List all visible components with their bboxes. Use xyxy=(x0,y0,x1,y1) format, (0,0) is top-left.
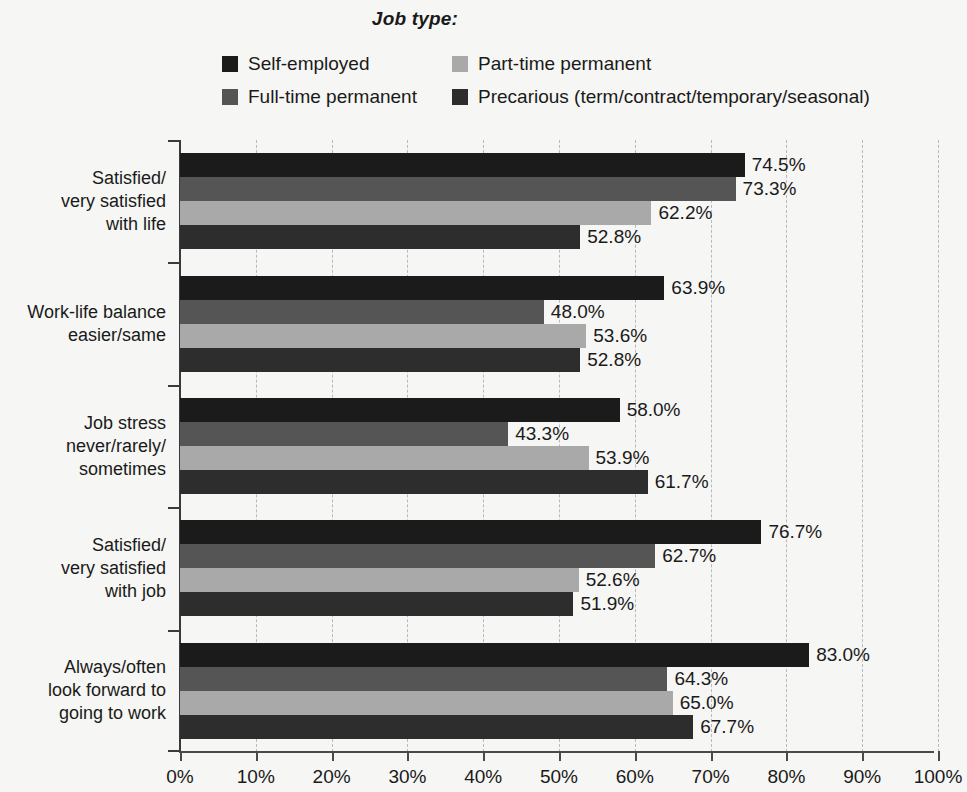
category-label: Always/oftenlook forward togoing to work xyxy=(0,656,166,725)
bar[interactable] xyxy=(180,446,589,470)
x-axis-tick xyxy=(559,751,561,761)
bar[interactable] xyxy=(180,177,736,201)
category-label-line: never/rarely/ xyxy=(0,435,166,458)
x-axis-tick xyxy=(635,751,637,761)
bar-value-label: 48.0% xyxy=(544,301,605,323)
bar[interactable] xyxy=(180,300,544,324)
bar-value-label: 76.7% xyxy=(761,521,822,543)
legend-row: Self-employed Part-time permanent xyxy=(222,54,922,87)
x-axis-tick-label: 0% xyxy=(140,766,220,788)
bar[interactable] xyxy=(180,592,573,616)
bar[interactable] xyxy=(180,398,620,422)
bar-value-label: 83.0% xyxy=(809,644,870,666)
legend-swatch-precarious xyxy=(452,89,468,105)
category-label-line: easier/same xyxy=(0,324,166,347)
y-axis-tick xyxy=(168,630,180,632)
category-label: Work-life balanceeasier/same xyxy=(0,301,166,347)
bar-row: 52.8% xyxy=(180,225,934,249)
category-label: Job stressnever/rarely/sometimes xyxy=(0,412,166,481)
y-axis-tick xyxy=(168,750,180,752)
y-axis-tick xyxy=(168,385,180,387)
legend-label-full-time-permanent: Full-time permanent xyxy=(248,87,417,107)
bar[interactable] xyxy=(180,715,693,739)
bar[interactable] xyxy=(180,422,508,446)
x-axis-tick-label: 50% xyxy=(519,766,599,788)
bar[interactable] xyxy=(180,153,745,177)
bar-row: 67.7% xyxy=(180,715,934,739)
legend-swatch-self-employed xyxy=(222,56,238,72)
category-label-line: going to work xyxy=(0,702,166,725)
category-label-line: look forward to xyxy=(0,679,166,702)
bar-value-label: 53.9% xyxy=(589,447,650,469)
bar-value-label: 52.8% xyxy=(580,349,641,371)
bar[interactable] xyxy=(180,276,664,300)
bar-value-label: 73.3% xyxy=(736,178,797,200)
x-axis-line xyxy=(179,751,934,753)
category-label-line: Job stress xyxy=(0,412,166,435)
category-label-line: very satisfied xyxy=(0,190,166,213)
bar-value-label: 52.8% xyxy=(580,226,641,248)
bar-row: 62.2% xyxy=(180,201,934,225)
legend-item-precarious[interactable]: Precarious (term/contract/temporary/seas… xyxy=(452,87,870,107)
legend-swatch-full-time-permanent xyxy=(222,89,238,105)
bar[interactable] xyxy=(180,691,673,715)
legend-item-self-employed[interactable]: Self-employed xyxy=(222,54,452,74)
x-axis-tick xyxy=(862,751,864,761)
bar-row: 52.8% xyxy=(180,348,934,372)
bar[interactable] xyxy=(180,324,586,348)
x-axis-tick xyxy=(407,751,409,761)
bar-value-label: 65.0% xyxy=(673,692,734,714)
x-axis-tick-label: 80% xyxy=(746,766,826,788)
bar-row: 74.5% xyxy=(180,153,934,177)
category-label-line: sometimes xyxy=(0,458,166,481)
x-axis-tick xyxy=(483,751,485,761)
bar-row: 43.3% xyxy=(180,422,934,446)
bar[interactable] xyxy=(180,667,667,691)
bar-chart: Satisfied/very satisfiedwith lifeWork-li… xyxy=(0,140,934,755)
bar-value-label: 62.7% xyxy=(655,545,716,567)
plot-area: 74.5%73.3%62.2%52.8%63.9%48.0%53.6%52.8%… xyxy=(180,140,934,752)
category-label-line: Satisfied/ xyxy=(0,167,166,190)
bar-value-label: 52.6% xyxy=(579,569,640,591)
bar-row: 62.7% xyxy=(180,544,934,568)
category-label-line: Satisfied/ xyxy=(0,534,166,557)
x-axis-tick xyxy=(938,751,940,761)
x-axis-tick-label: 90% xyxy=(822,766,902,788)
category-label-line: with job xyxy=(0,580,166,603)
bar-value-label: 62.2% xyxy=(651,202,712,224)
legend-row: Full-time permanent Precarious (term/con… xyxy=(222,87,922,120)
bar[interactable] xyxy=(180,568,579,592)
bar-row: 61.7% xyxy=(180,470,934,494)
legend-label-self-employed: Self-employed xyxy=(248,54,369,74)
bar-value-label: 58.0% xyxy=(620,399,681,421)
bar[interactable] xyxy=(180,520,761,544)
legend-swatch-part-time-permanent xyxy=(452,56,468,72)
y-axis-tick xyxy=(168,262,180,264)
x-axis-tick xyxy=(180,751,182,761)
legend-item-full-time-permanent[interactable]: Full-time permanent xyxy=(222,87,452,107)
bar[interactable] xyxy=(180,470,648,494)
x-axis-tick-label: 70% xyxy=(671,766,751,788)
category-label: Satisfied/very satisfiedwith job xyxy=(0,534,166,603)
x-axis-tick xyxy=(256,751,258,761)
bar-value-label: 43.3% xyxy=(508,423,569,445)
bar[interactable] xyxy=(180,225,580,249)
x-axis-tick xyxy=(332,751,334,761)
bar[interactable] xyxy=(180,348,580,372)
bar-row: 65.0% xyxy=(180,691,934,715)
x-axis-tick-label: 100% xyxy=(898,766,967,788)
bar-row: 48.0% xyxy=(180,300,934,324)
category-label: Satisfied/very satisfiedwith life xyxy=(0,167,166,236)
y-axis-tick xyxy=(168,507,180,509)
x-axis-tick-label: 60% xyxy=(595,766,675,788)
bar-value-label: 53.6% xyxy=(586,325,647,347)
legend-item-part-time-permanent[interactable]: Part-time permanent xyxy=(452,54,651,74)
category-label-line: with life xyxy=(0,213,166,236)
bar[interactable] xyxy=(180,201,651,225)
bar[interactable] xyxy=(180,643,809,667)
bar-value-label: 51.9% xyxy=(573,593,634,615)
bar-row: 63.9% xyxy=(180,276,934,300)
bar-value-label: 61.7% xyxy=(648,471,709,493)
bar[interactable] xyxy=(180,544,655,568)
legend-label-precarious: Precarious (term/contract/temporary/seas… xyxy=(478,87,870,107)
